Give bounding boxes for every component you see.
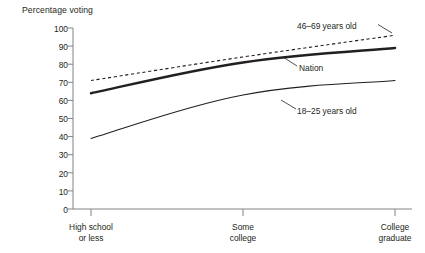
- series-line-46-69-years-old: [91, 35, 395, 80]
- plot-area: [0, 0, 425, 253]
- x-axis-ticks: [91, 209, 395, 216]
- series-line-nation: [91, 48, 395, 93]
- y-axis-ticks: [67, 28, 73, 209]
- leader-line-nation: [283, 57, 297, 66]
- chart-container: Percentage voting 100 90 80 70 60 50 40 …: [0, 0, 425, 253]
- leader-line-46-69-years-old: [378, 25, 392, 34]
- series-line-18-25-years-old: [91, 80, 395, 138]
- leader-line-18-25-years-old: [281, 100, 296, 109]
